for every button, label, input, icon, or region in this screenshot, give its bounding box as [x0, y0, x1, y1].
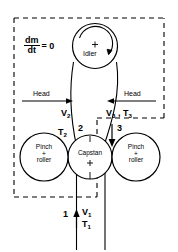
capstan-wheel	[68, 135, 112, 179]
velocity-tension-3-label: V3 , T3	[106, 109, 132, 118]
velocity-2-subscript: 2	[67, 112, 70, 119]
velocity-1-label: V1	[82, 208, 91, 217]
station-1-arrow	[73, 209, 79, 228]
station-3-number: 3	[117, 124, 122, 133]
head-left-label: Head	[33, 90, 50, 97]
tension-1-label: T1	[82, 220, 91, 229]
pinch-roller-left-label: Pinch + roller	[25, 144, 63, 164]
head-left-arrowhead	[66, 98, 73, 104]
velocity-3-subscript: 3	[112, 112, 115, 119]
head-right-arrowhead	[107, 98, 114, 104]
equation-denominator: dt	[24, 46, 40, 55]
station-2-number: 2	[78, 124, 83, 133]
idler-label: Idler	[83, 50, 97, 57]
mass-conservation-equation: dm dt = 0	[24, 36, 54, 56]
tension-2-symbol: T	[58, 127, 64, 137]
idler-wheel	[73, 24, 118, 69]
pinch-roller-right-label: Pinch + roller	[117, 144, 155, 164]
equation-rhs: = 0	[42, 41, 55, 51]
station-1-number: 1	[63, 210, 68, 219]
tension-2-label: T2	[58, 128, 67, 137]
velocity-2-label: V2	[61, 109, 70, 118]
tension-2-subscript: 2	[64, 131, 67, 138]
velocity-tension-3-separator: ,	[115, 108, 120, 118]
tension-1-symbol: T	[82, 219, 88, 229]
capstan-label: Capstan	[71, 150, 109, 157]
tape-span-left	[71, 62, 77, 146]
pinch-roller-left-label-line3: roller	[25, 157, 63, 164]
tension-1-subscript: 1	[88, 223, 91, 230]
tape-span-right	[104, 62, 118, 147]
velocity-1-subscript: 1	[88, 211, 91, 218]
head-right-label: Head	[124, 90, 141, 97]
tension-3-subscript: 3	[128, 112, 131, 119]
pinch-roller-right-label-line3: roller	[117, 157, 155, 164]
head-arrows	[22, 98, 156, 104]
station-1-arrowhead	[73, 209, 79, 217]
